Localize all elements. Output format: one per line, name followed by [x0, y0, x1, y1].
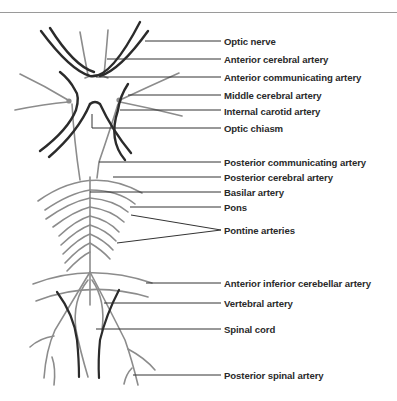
label-optic-chiasm: Optic chiasm [224, 123, 283, 134]
label-middle-cerebral-artery: Middle cerebral artery [224, 90, 322, 101]
label-anterior-cerebral-artery: Anterior cerebral artery [224, 54, 328, 65]
label-posterior-cerebral-artery: Posterior cerebral artery [224, 172, 333, 183]
label-anterior-inferior-cerebellar-artery: Anterior inferior cerebellar artery [224, 278, 371, 289]
label-pontine-arteries: Pontine arteries [224, 225, 295, 236]
pons-arteries [38, 177, 142, 305]
label-optic-nerve: Optic nerve [224, 36, 276, 47]
label-pons: Pons [224, 202, 247, 213]
leader-lines [90, 41, 221, 375]
label-anterior-communicating-artery: Anterior communicating artery [224, 72, 361, 83]
label-internal-carotid-artery: Internal carotid artery [224, 106, 320, 117]
artery-diagram [0, 0, 397, 401]
label-basilar-artery: Basilar artery [224, 187, 284, 198]
label-spinal-cord: Spinal cord [224, 324, 275, 335]
upper-gray-vessels [15, 30, 182, 180]
optic-chiasm-shape [40, 22, 148, 160]
label-posterior-communicating-artery: Posterior communicating artery [224, 157, 366, 168]
label-vertebral-artery: Vertebral artery [224, 298, 293, 309]
label-posterior-spinal-artery: Posterior spinal artery [224, 370, 324, 381]
